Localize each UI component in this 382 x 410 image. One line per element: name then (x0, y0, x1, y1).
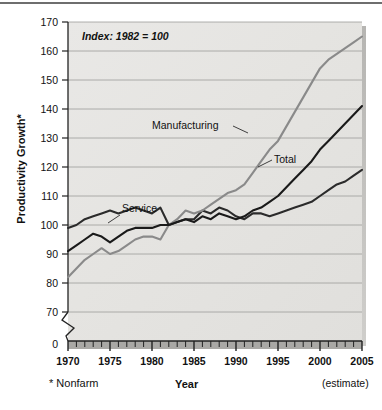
y-tick-label: 130 (40, 132, 58, 144)
x-tick-label: 1995 (266, 355, 290, 367)
y-tick-label: 170 (40, 16, 58, 28)
x-tick-label: 1975 (98, 355, 122, 367)
x-tick-label: 2005 (350, 355, 374, 367)
estimate-note: (estimate) (322, 377, 369, 389)
y-tick-label: 140 (40, 103, 58, 115)
x-tick-label: 1990 (224, 355, 248, 367)
x-axis-band (68, 341, 362, 349)
y-tick-label: 80 (46, 277, 58, 289)
y-ticks (62, 22, 68, 312)
x-tick-label: 1970 (56, 355, 80, 367)
y-tick-label: 160 (40, 45, 58, 57)
x-axis-title: Year (175, 378, 198, 390)
chart-figure: 170 160 150 140 130 120 110 100 90 80 70… (0, 0, 382, 410)
series-label-total: Total (274, 153, 296, 165)
index-note: Index: 1982 = 100 (82, 30, 169, 42)
y-tick-labels: 170 160 150 140 130 120 110 100 90 80 70… (40, 16, 58, 350)
x-tick-label: 1985 (182, 355, 206, 367)
y-axis-title: Productivity Growth* (15, 94, 27, 244)
y-tick-label: 90 (46, 248, 58, 260)
x-tick-label: 1980 (140, 355, 164, 367)
x-tick-label: 2000 (308, 355, 332, 367)
y-tick-label: 100 (40, 219, 58, 231)
series-label-manufacturing: Manufacturing (152, 119, 219, 131)
y-tick-label: 120 (40, 161, 58, 173)
x-tick-labels: 19701975198019851990199520002005 (56, 355, 374, 367)
y-tick-label: 150 (40, 74, 58, 86)
y-tick-label: 70 (46, 306, 58, 318)
y-tick-label-zero: 0 (52, 338, 58, 350)
y-tick-label: 110 (41, 190, 58, 202)
footnote-nonfarm: * Nonfarm (49, 377, 99, 389)
chart-svg: 170 160 150 140 130 120 110 100 90 80 70… (0, 0, 382, 410)
series-label-service: Service (122, 202, 157, 214)
